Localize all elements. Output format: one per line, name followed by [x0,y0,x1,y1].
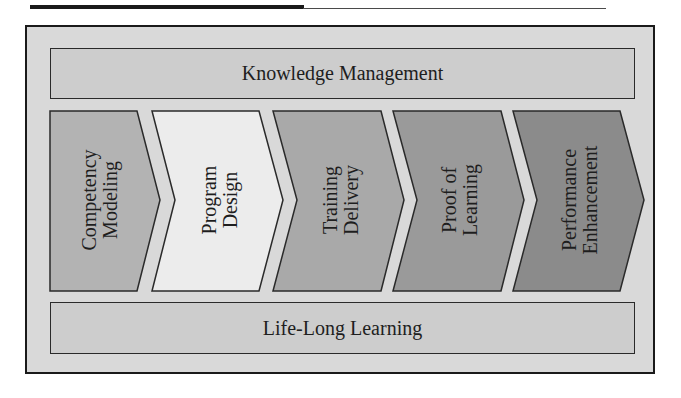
life-long-learning-label: Life-Long Learning [263,317,422,340]
chevron-competency-modeling [50,111,160,291]
chevron-proof-of-learning [393,111,524,291]
chevron-training-delivery [273,111,404,291]
life-long-learning-band: Life-Long Learning [50,302,635,354]
chevron-performance-enhancement [513,111,644,291]
chevron-program-design [152,111,283,291]
